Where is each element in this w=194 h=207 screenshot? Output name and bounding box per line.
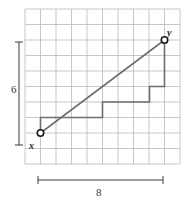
- point-label-y: y: [167, 27, 171, 38]
- slope-diagram-figure: x y 6 8: [0, 0, 194, 207]
- run-measure-label: 8: [96, 186, 102, 198]
- point-marker-x: [37, 130, 43, 136]
- rise-measure-label: 6: [11, 83, 17, 95]
- diagram-canvas: [0, 0, 194, 207]
- point-label-x: x: [29, 140, 34, 151]
- measure-brackets: [15, 42, 163, 184]
